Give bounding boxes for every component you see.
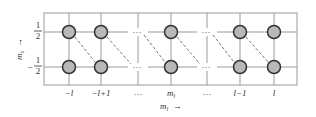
x-tick-minus-l-plus-1: −l+1 [91, 88, 110, 98]
y-axis-label: ms→ [14, 38, 25, 60]
x-tick-m-l: ml [167, 88, 176, 99]
node-minus-l-minus-half [63, 61, 76, 74]
dashed-link-4 [177, 37, 200, 64]
quantum-number-grid-diagram: ··· ··· ··· ··· 1 2 − 1 2 [0, 0, 316, 117]
node-l-minus-1-minus-half [234, 61, 247, 74]
y-tick-plus-half: 1 2 [34, 20, 42, 41]
dashed-link-3 [144, 35, 165, 62]
node-l-minus-1-plus-half [234, 26, 247, 39]
node-l-minus-half [268, 61, 281, 74]
x-tick-minus-l: −l [65, 88, 74, 98]
x-tick-ellipsis-2: ··· [203, 89, 212, 99]
dashed-link-1 [75, 37, 95, 62]
y-tick-minus-half-denominator: 2 [36, 66, 41, 76]
y-tick-minus-half-numerator: 1 [36, 55, 41, 65]
y-tick-plus-half-denominator: 2 [36, 31, 41, 41]
dashed-link-6 [246, 37, 268, 62]
node-m-l-minus-half [165, 61, 178, 74]
y-axis-arrow: → [14, 38, 24, 47]
node-minus-l-plus-1-plus-half [95, 26, 108, 39]
svg-text:ms→: ms→ [14, 38, 25, 60]
y-axis-label-sub: s [19, 50, 25, 53]
node-m-l-plus-half [165, 26, 178, 39]
y-tick-plus-half-numerator: 1 [36, 20, 41, 30]
y-tick-minus-half: − 1 2 [27, 55, 42, 76]
node-l-plus-half [268, 26, 281, 39]
x-axis-label: ml→ [160, 101, 182, 112]
x-tick-l: l [273, 88, 276, 98]
ellipsis-row2-col1: ··· [133, 62, 142, 72]
x-tick-labels: −l −l+1 ··· ml ··· l−1 l [65, 88, 276, 99]
x-tick-l-minus-1: l−1 [233, 88, 246, 98]
node-minus-l-plus-half [63, 26, 76, 39]
y-tick-minus-half-sign: − [27, 62, 32, 72]
dashed-link-2 [107, 37, 131, 64]
ellipsis-row1-col1: ··· [133, 27, 142, 37]
x-tick-ellipsis-1: ··· [134, 89, 143, 99]
ellipsis-row1-col2: ··· [202, 27, 211, 37]
ellipsis-row2-col2: ··· [202, 62, 211, 72]
node-minus-l-plus-1-minus-half [95, 61, 108, 74]
dashed-link-5 [213, 35, 234, 62]
